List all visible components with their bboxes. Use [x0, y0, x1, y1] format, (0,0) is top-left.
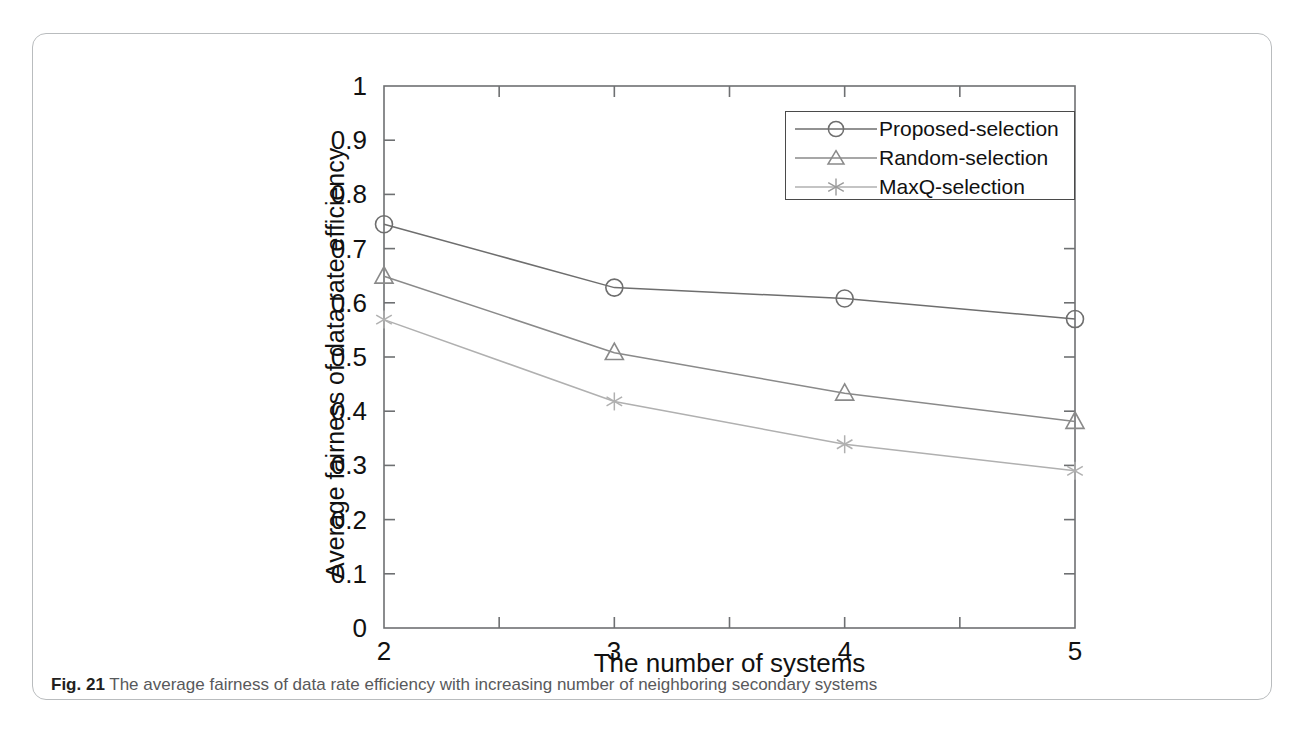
legend-sample-asterisk-icon	[793, 175, 879, 199]
series-maxq-selection	[376, 311, 1083, 480]
figure-caption-text: The average fairness of data rate effici…	[109, 675, 877, 694]
chart-plot-area: 1 0.9 0.8 0.7 0.6 0.5 0.4 0.3 0.2 0.1 0 …	[33, 34, 1273, 654]
ytick-label-1: 1	[315, 71, 367, 102]
series-proposed-selection	[376, 216, 1084, 328]
chart-canvas	[33, 34, 1273, 654]
series-random-selection	[375, 267, 1084, 429]
legend-label-proposed-selection: Proposed-selection	[879, 118, 1059, 139]
ytick-label-0: 0	[315, 613, 367, 644]
legend-sample-triangle-icon	[793, 146, 879, 170]
marker-asterisk-icon	[607, 392, 623, 410]
figure-card: 1 0.9 0.8 0.7 0.6 0.5 0.4 0.3 0.2 0.1 0 …	[32, 33, 1272, 700]
legend-item-proposed-selection: Proposed-selection	[786, 114, 1074, 143]
series-line	[384, 224, 1075, 319]
chart-legend: Proposed-selection Random-selection	[785, 111, 1075, 200]
series-line	[384, 276, 1075, 421]
legend-label-random-selection: Random-selection	[879, 147, 1048, 168]
legend-item-maxq-selection: MaxQ-selection	[786, 172, 1074, 201]
legend-label-maxq-selection: MaxQ-selection	[879, 176, 1025, 197]
y-axis-title: Average fairness of data rate efficiency	[321, 148, 350, 579]
legend-sample-circle-icon	[793, 117, 879, 141]
legend-item-random-selection: Random-selection	[786, 143, 1074, 172]
figure-caption-number: Fig. 21	[51, 675, 105, 694]
figure-caption: Fig. 21 The average fairness of data rat…	[51, 674, 1251, 696]
marker-asterisk-icon	[376, 311, 392, 329]
series-line	[384, 320, 1075, 471]
